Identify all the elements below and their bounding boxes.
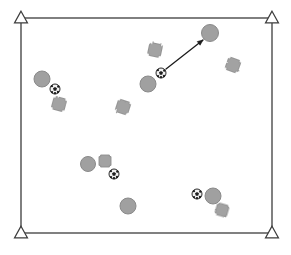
soccer-ball-patch — [193, 196, 195, 198]
soccer-ball-patch — [163, 69, 165, 71]
soccer-ball-patch — [51, 91, 53, 93]
cross-obstacle — [147, 42, 162, 57]
soccer-ball-patch — [157, 75, 159, 77]
soccer-ball-patch — [157, 69, 159, 71]
cross-obstacle — [51, 96, 67, 112]
soccer-ball-patch — [57, 91, 59, 93]
soccer-ball-patch — [160, 76, 162, 78]
soccer-ball-patch — [163, 75, 165, 77]
gray-disc — [140, 76, 156, 92]
soccer-ball — [156, 68, 166, 78]
soccer-ball-patch — [54, 92, 56, 94]
soccer-ball — [109, 169, 119, 179]
gray-disc — [205, 188, 221, 204]
cross-obstacle — [215, 203, 230, 218]
scene-background — [0, 0, 291, 255]
soccer-ball-patch — [116, 176, 118, 178]
soccer-ball-patch — [110, 176, 112, 178]
soccer-ball-patch — [110, 170, 112, 172]
cross-obstacle — [99, 155, 111, 167]
soccer-ball-patch — [116, 170, 118, 172]
scene-root — [0, 0, 291, 255]
gray-disc — [120, 198, 136, 214]
soccer-ball-patch — [51, 85, 53, 87]
soccer-ball — [192, 189, 202, 199]
soccer-ball-patch — [193, 190, 195, 192]
soccer-ball-patch — [113, 177, 115, 179]
scene-canvas — [0, 0, 291, 255]
gray-disc — [81, 157, 96, 172]
soccer-ball-patch — [196, 197, 198, 199]
soccer-ball — [50, 84, 60, 94]
soccer-ball-patch — [57, 85, 59, 87]
gray-disc — [202, 25, 219, 42]
soccer-ball-patch — [199, 196, 201, 198]
soccer-ball-patch — [199, 190, 201, 192]
gray-disc — [34, 71, 50, 87]
